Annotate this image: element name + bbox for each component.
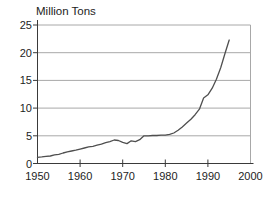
x-tick-label: 1980 — [153, 170, 177, 182]
y-tick-label: 5 — [26, 130, 32, 142]
x-tick-label: 2000 — [238, 170, 262, 182]
x-tick-label: 1950 — [25, 170, 49, 182]
line-chart-canvas: 0510152025195019601970198019902000 — [0, 0, 272, 199]
y-tick-label: 15 — [20, 74, 32, 86]
chart-figure: Million Tons 051015202519501960197019801… — [0, 0, 272, 199]
y-tick-label: 10 — [20, 102, 32, 114]
y-tick-label: 20 — [20, 47, 32, 59]
x-tick-label: 1990 — [196, 170, 220, 182]
x-tick-label: 1960 — [68, 170, 92, 182]
y-tick-label: 0 — [26, 158, 32, 170]
data-line — [38, 40, 230, 157]
y-tick-label: 25 — [20, 19, 32, 31]
x-tick-label: 1970 — [110, 170, 134, 182]
